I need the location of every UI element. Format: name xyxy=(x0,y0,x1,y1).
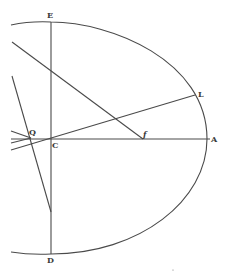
label-l: L xyxy=(198,89,204,99)
label-d: D xyxy=(47,255,54,265)
label-c: C xyxy=(52,140,58,150)
line-to-f xyxy=(12,42,143,139)
label-e: E xyxy=(47,10,53,20)
label-f: f xyxy=(142,129,148,139)
line-c-to-l xyxy=(11,95,195,150)
label-a: A xyxy=(210,134,218,144)
label-q: Q xyxy=(29,127,36,137)
ellipse-diagram: E L Q C f A D xyxy=(0,0,225,279)
speck xyxy=(172,269,173,270)
ellipse-arc xyxy=(11,22,207,254)
